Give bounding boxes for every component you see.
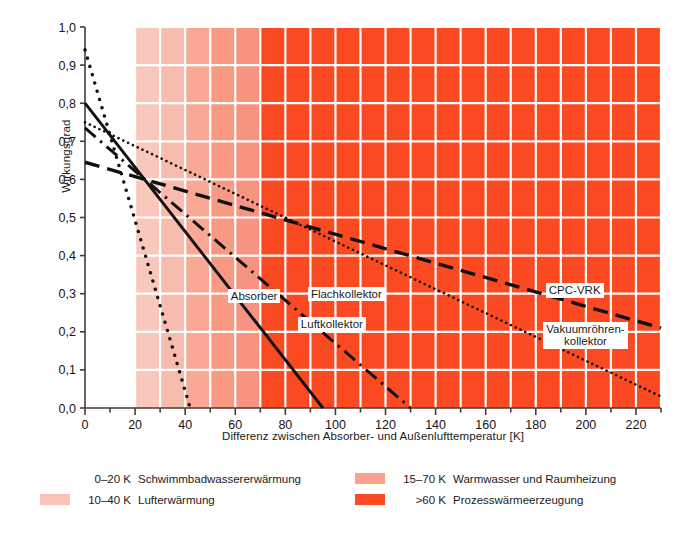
y-tick-label: 0,4	[59, 249, 76, 263]
y-tick-label: 0,2	[59, 325, 76, 339]
series-label-absorber: Absorber	[228, 289, 281, 304]
legend-range: 0–20 K	[77, 473, 131, 485]
legend-swatch	[40, 473, 70, 484]
series-label-line-2: kollektor	[546, 335, 624, 348]
legend-item: >60 KProzesswärmeerzeugung	[355, 489, 616, 510]
y-tick-label: 0,0	[59, 402, 76, 416]
y-tick-label: 1,0	[59, 21, 76, 35]
legend-item: 10–40 KLufterwärmung	[40, 489, 301, 510]
legend-label: Lufterwärmung	[138, 494, 215, 506]
legend-label: Prozesswärmeerzeugung	[453, 494, 583, 506]
solar-collector-efficiency-figure: 0,00,10,20,30,40,50,60,70,80,91,00204060…	[0, 0, 689, 538]
legend-range: 15–70 K	[392, 473, 446, 485]
series-label-vakuumroehrenkollektor: Vakuumröhren-kollektor	[543, 322, 627, 350]
series-label-cpc-vrk: CPC-VRK	[546, 283, 604, 298]
legend-swatch	[355, 473, 385, 484]
legend-column-right: 15–70 KWarmwasser und Raumheizung>60 KPr…	[355, 468, 616, 510]
series-label-flachkollektor: Flachkollektor	[308, 287, 385, 302]
efficiency-chart-svg: 0,00,10,20,30,40,50,60,70,80,91,00204060…	[0, 0, 689, 460]
plot-area-wrapper: 0,00,10,20,30,40,50,60,70,80,91,00204060…	[0, 0, 689, 460]
legend-range: 10–40 K	[77, 494, 131, 506]
legend-swatch	[40, 494, 70, 505]
legend-column-left: 0–20 KSchwimmbadwassererwärmung10–40 KLu…	[40, 468, 301, 510]
series-label-luftkollektor: Luftkollektor	[298, 317, 366, 332]
legend-label: Schwimmbadwassererwärmung	[138, 473, 301, 485]
y-tick-label: 0,3	[59, 287, 76, 301]
legend-range: >60 K	[392, 494, 446, 506]
x-axis-title: Differenz zwischen Absorber- und Außenlu…	[85, 430, 661, 442]
legend: 0–20 KSchwimmbadwassererwärmung10–40 KLu…	[0, 468, 689, 528]
y-tick-label: 0,1	[59, 363, 76, 377]
y-axis-title: Wirkungsgrad	[60, 66, 72, 246]
legend-item: 0–20 KSchwimmbadwassererwärmung	[40, 468, 301, 489]
legend-label: Warmwasser und Raumheizung	[453, 473, 616, 485]
series-label-line-1: Vakuumröhren-	[546, 323, 624, 336]
legend-swatch	[355, 494, 385, 505]
legend-item: 15–70 KWarmwasser und Raumheizung	[355, 468, 616, 489]
